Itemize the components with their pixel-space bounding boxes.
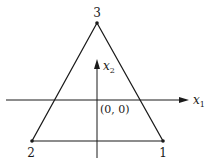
x2-axis-label-subscript: 2 (110, 66, 115, 75)
x1-axis-arrowhead (179, 97, 189, 103)
node-3 (95, 21, 99, 25)
x2-axis-label: x2 (103, 59, 115, 75)
node-1-label: 1 (159, 146, 167, 160)
x1-axis-label: x1 (193, 93, 205, 109)
node-3-label: 3 (93, 6, 101, 20)
triangle-diagram: 1 2 3 x1 x2 (0, 0) (0, 0, 211, 165)
x1-axis-label-subscript: 1 (200, 100, 205, 109)
node-2-label: 2 (27, 146, 35, 160)
x2-axis-arrowhead (94, 59, 100, 69)
node-2 (30, 139, 34, 143)
origin-label: (0, 0) (100, 103, 130, 116)
node-1 (161, 139, 165, 143)
